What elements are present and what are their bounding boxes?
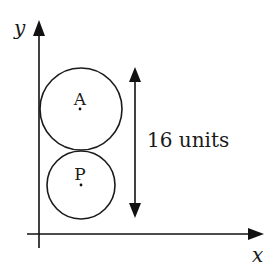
circle-a-center-dot	[79, 108, 82, 111]
circle-a: A	[40, 68, 122, 150]
y-axis-label: y	[13, 16, 26, 40]
dimension-label: 16 units	[147, 128, 229, 152]
circle-a-label: A	[73, 89, 87, 109]
x-axis-arrow-icon	[248, 228, 264, 240]
dimension-arrow-up-icon	[129, 67, 141, 82]
y-axis: y	[13, 16, 45, 248]
circle-p-label: P	[74, 164, 85, 184]
dimension-arrow-down-icon	[129, 203, 141, 218]
circle-p: P	[47, 151, 115, 219]
x-axis: x	[27, 228, 264, 267]
circle-p-center-dot	[80, 184, 83, 187]
circles-diagram: y x A P 16 units	[0, 0, 279, 277]
dimension-arrow: 16 units	[129, 67, 229, 218]
x-axis-label: x	[252, 243, 263, 267]
y-axis-arrow-icon	[33, 20, 45, 36]
